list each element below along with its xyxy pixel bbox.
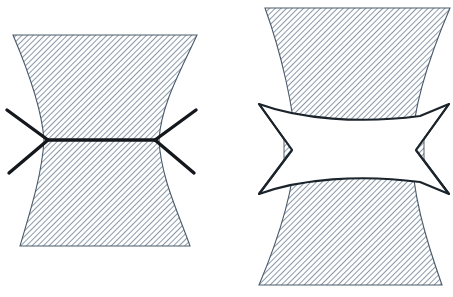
- right-panel: [259, 8, 450, 285]
- figure-root: Necking and shear-band deformation diagr…: [0, 0, 453, 297]
- figure-svg: [0, 0, 453, 297]
- left-panel: [7, 35, 197, 246]
